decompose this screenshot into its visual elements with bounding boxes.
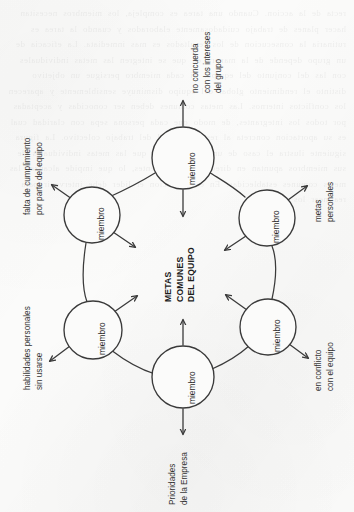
member-circle-upper-left [64,187,120,243]
member-label-upper-left: miembro [96,207,106,240]
label-habilidades-sin-usar-line-2: sin usarse [34,306,46,390]
member-label-lower-right: miembro [272,319,282,352]
member-circle-lower-left [64,301,122,359]
label-prioridades-empresa-line-2: de la Empresa [179,452,191,505]
arrow-lowerleft-inward [114,296,137,312]
center-goal-label: METAS COMUNES DEL EQUIPO [163,247,198,302]
member-circle-lower-right [240,299,296,355]
arrow-falta-cumplimiento [52,185,72,199]
member-label-lower-left: miembro [97,322,107,355]
center-goal-line-1: METAS [163,247,175,302]
member-label-upper-right: miembro [271,210,281,243]
label-en-conflicto-line-1: en conflicto [313,342,325,391]
label-no-concuerda-line-2: con los intereses [202,32,214,93]
center-goal-line-2: COMUNES [175,247,187,302]
label-metas-personales-line-1: metas [313,182,325,222]
link-lowerleft-bottom [111,350,155,374]
label-no-concuerda-line-3: del grupo [213,32,225,93]
label-metas-personales-line-2: personales [325,182,337,222]
label-prioridades-empresa-line-1: Prioridades [167,452,179,505]
label-falta-cumplimiento-line-1: falta de cumplimiento [22,138,34,215]
link-upperright-top [209,172,245,197]
label-falta-cumplimiento-line-2: por parte del equipo [34,138,46,215]
arrow-lowerright-inward [226,295,247,310]
label-en-conflicto: en conflicto con el equipo [313,342,336,391]
label-en-conflicto-line-2: con el equipo [325,342,337,391]
member-label-top: miembro [187,152,197,185]
label-falta-cumplimiento: falta de cumplimiento por parte del equi… [22,138,45,215]
member-circle-upper-right [239,190,295,246]
member-circle-top [152,127,214,189]
member-label-bottom: miembro [187,371,197,404]
label-metas-personales: metas personales [313,182,336,222]
arrow-upperleft-inward [113,232,135,247]
link-bottom-lowerright [212,346,249,369]
arrow-upperright-inward [225,236,246,250]
label-habilidades-sin-usar: habilidades personales sin usarse [22,306,45,390]
label-habilidades-sin-usar-line-1: habilidades personales [22,306,34,390]
center-goal-line-3: DEL EQUIPO [186,247,198,302]
arrow-en-conflicto [289,344,308,358]
label-no-concuerda: no concuerda con los intereses del grupo [190,32,225,93]
link-upperleft-lowerleft [83,243,87,302]
label-no-concuerda-line-1: no concuerda [190,32,202,93]
member-circle-bottom [152,346,214,408]
link-lowerright-upperright [272,246,276,299]
scanned-figure-page: recta de la accion. Cuando una tarea es … [0,0,354,512]
label-prioridades-empresa: Prioridades de la Empresa [167,452,190,505]
arrow-habilidades-sin-usar [50,346,70,361]
arrow-metas-personales [288,186,307,200]
